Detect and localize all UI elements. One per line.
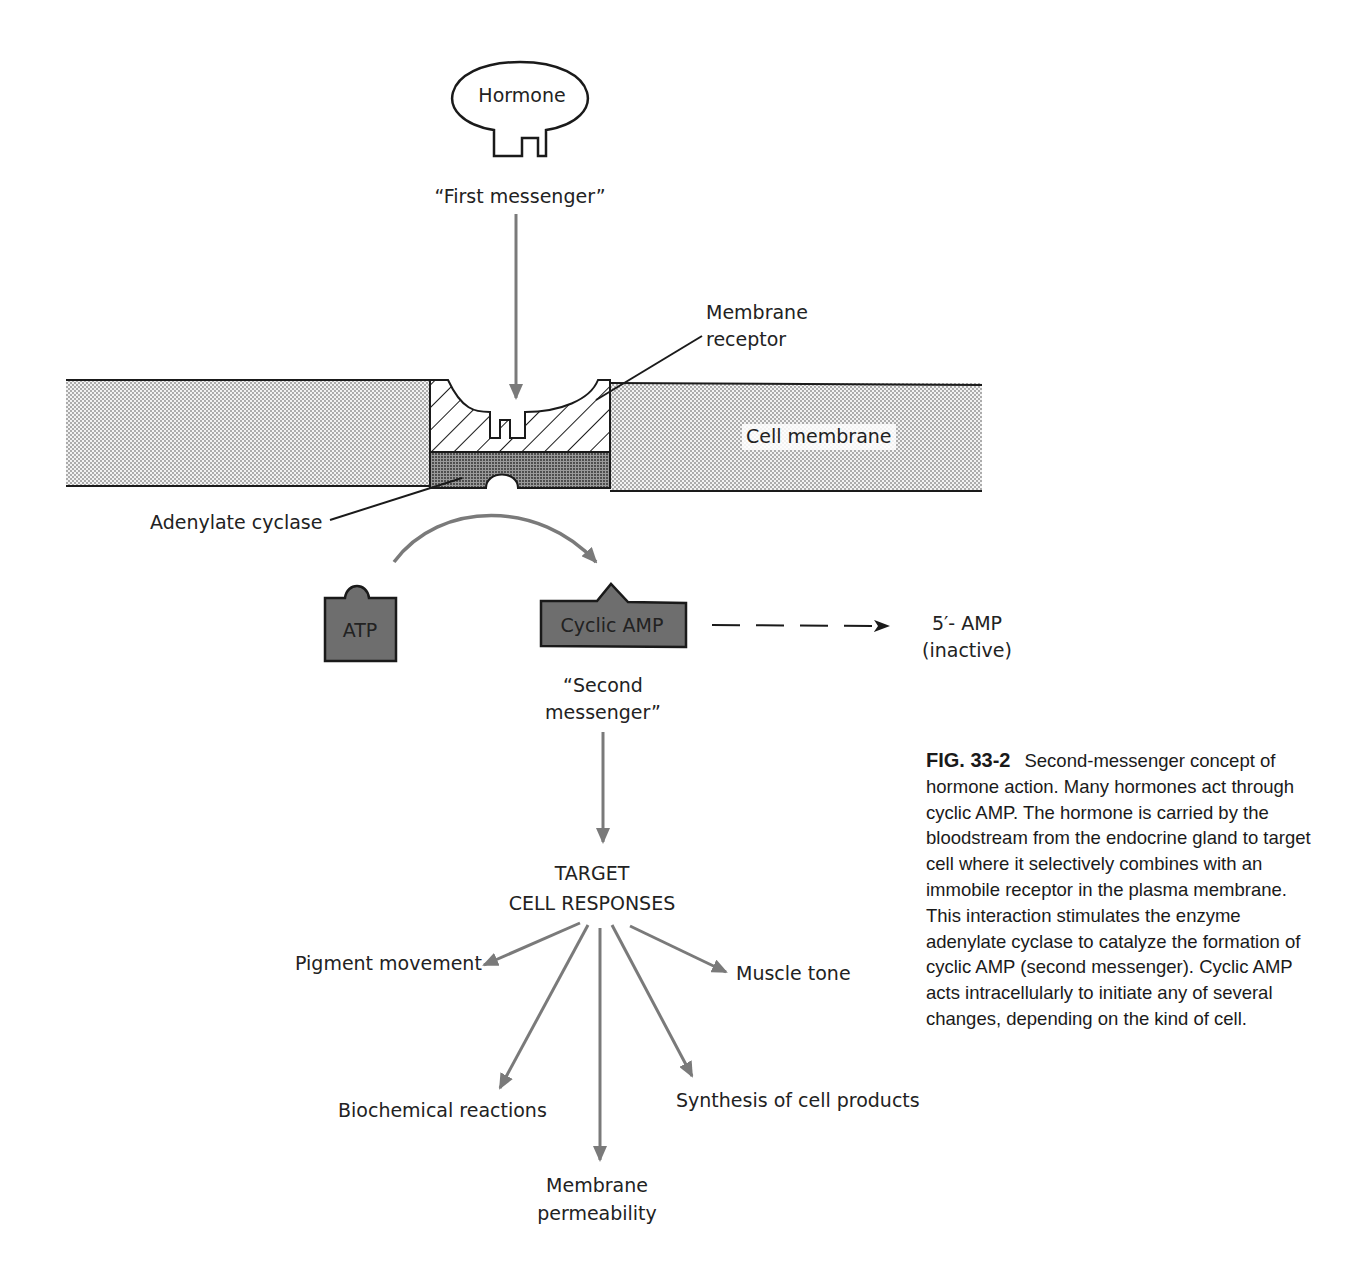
response-arrows xyxy=(484,923,726,1160)
second-messenger-label-1: “Second xyxy=(563,674,643,696)
response-biochemical-reactions: Biochemical reactions xyxy=(338,1099,547,1121)
hormone-label: Hormone xyxy=(478,84,565,106)
first-messenger-label: “First messenger” xyxy=(434,185,605,207)
target-label-1: TARGET xyxy=(554,862,630,884)
target-label-2: CELL RESPONSES xyxy=(509,892,676,914)
response-membrane-permeability-1: Membrane xyxy=(546,1174,648,1196)
amp-inactive-label-2: (inactive) xyxy=(922,639,1012,661)
amp-inactive-label-1: 5′- AMP xyxy=(932,612,1002,634)
second-messenger-label-2: messenger” xyxy=(545,701,661,723)
adenylate-cyclase-label: Adenylate cyclase xyxy=(150,511,322,533)
figure-number: FIG. 33-2 xyxy=(926,749,1010,771)
figure-caption: FIG. 33-2Second-messenger concept of hor… xyxy=(926,748,1321,1032)
response-muscle-tone: Muscle tone xyxy=(736,962,851,984)
hormone-shape: Hormone xyxy=(452,62,588,156)
atp-label: ATP xyxy=(343,619,378,641)
membrane-receptor-shape xyxy=(430,380,610,452)
atp-molecule: ATP xyxy=(325,586,396,661)
response-synthesis: Synthesis of cell products xyxy=(676,1089,920,1111)
response-membrane-permeability-2: permeability xyxy=(537,1202,657,1224)
caption-text: Second-messenger concept of hormone acti… xyxy=(926,750,1311,1029)
cyclic-amp-molecule: Cyclic AMP xyxy=(541,584,686,647)
cell-membrane-label: Cell membrane xyxy=(746,425,892,447)
cell-membrane-left xyxy=(66,380,430,486)
cyclic-amp-label: Cyclic AMP xyxy=(561,614,664,636)
second-messenger-diagram: Hormone “First messenger” Cell membrane … xyxy=(0,0,1370,1281)
membrane-receptor-label-2: receptor xyxy=(706,328,786,350)
adenylate-cyclase-shape xyxy=(430,452,610,488)
dashed-arrow-icon xyxy=(712,625,888,626)
curved-arrow-icon xyxy=(394,516,596,563)
response-pigment-movement: Pigment movement xyxy=(295,952,482,974)
membrane-receptor-label-1: Membrane xyxy=(706,301,808,323)
